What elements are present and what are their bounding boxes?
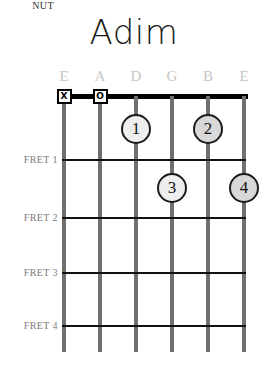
string-line-1 (98, 96, 102, 352)
finger-dot-3: 3 (157, 173, 187, 203)
fret-label-3: FRET 3 (4, 267, 58, 279)
fret-label-1: FRET 1 (4, 154, 58, 166)
chord-diagram-sheet: Adim EADGBE NUT FRET 1FRET 2FRET 3FRET 4… (0, 0, 268, 391)
string-line-0 (62, 96, 66, 352)
fret-line-2 (62, 217, 246, 219)
open-string-icon-1: O (93, 89, 108, 104)
string-line-5 (242, 96, 246, 352)
muted-string-icon-0: X (57, 89, 72, 104)
finger-dot-2: 2 (193, 114, 223, 144)
finger-dot-1: 1 (121, 114, 151, 144)
fret-line-4 (62, 325, 246, 327)
fret-label-2: FRET 2 (4, 212, 58, 224)
finger-dot-4: 4 (229, 173, 259, 203)
fret-line-1 (62, 159, 246, 161)
nut-label: NUT (4, 0, 54, 12)
nut-line (60, 94, 248, 99)
string-line-3 (170, 96, 174, 352)
fret-label-4: FRET 4 (4, 320, 58, 332)
fret-line-3 (62, 272, 246, 274)
fretboard: NUT FRET 1FRET 2FRET 3FRET 4XO1234 (0, 0, 268, 391)
